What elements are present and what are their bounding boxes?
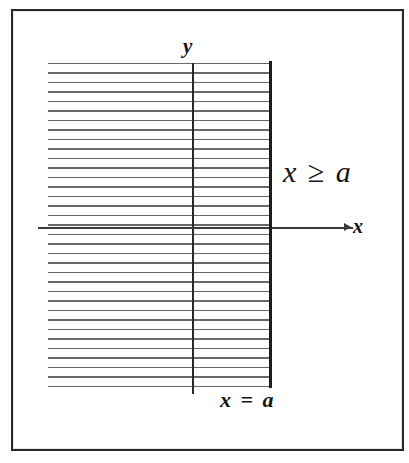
- figure-root: y x x ≥ a x = a: [0, 0, 409, 463]
- x-axis-arrow-icon: [344, 223, 351, 231]
- boundary-equation-label: x = a: [220, 389, 276, 411]
- boundary-line-x-equals-a: [269, 61, 272, 388]
- inequality-label: x ≥ a: [283, 157, 353, 187]
- x-axis-line: [38, 227, 353, 229]
- y-axis-label: y: [183, 36, 192, 57]
- plot-area: y x x ≥ a x = a: [0, 0, 409, 463]
- shaded-region-x-ge-a: [48, 63, 272, 387]
- x-axis-label: x: [353, 216, 363, 236]
